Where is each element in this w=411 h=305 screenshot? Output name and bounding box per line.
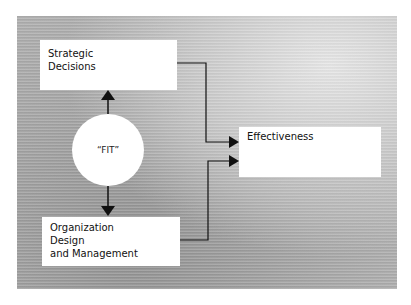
strategic-decisions-box: Strategic Decisions — [40, 40, 177, 90]
arrow-up-icon — [101, 90, 115, 100]
org-line-3: and Management — [50, 247, 172, 260]
strategic-line-2: Decisions — [48, 60, 169, 73]
strategic-to-effectiveness-line — [177, 63, 230, 142]
fit-label: “FIT” — [97, 145, 119, 155]
arrow-right-icon — [229, 136, 239, 148]
org-line-1: Organization — [50, 221, 172, 234]
effectiveness-label: Effectiveness — [247, 130, 373, 143]
arrow-right-icon — [229, 155, 239, 167]
fit-circle: “FIT” — [72, 114, 144, 186]
organization-box: Organization Design and Management — [42, 217, 180, 266]
org-to-effectiveness-line — [180, 161, 230, 240]
effectiveness-box: Effectiveness — [239, 127, 381, 177]
strategic-line-1: Strategic — [48, 47, 169, 60]
arrow-down-icon — [101, 206, 115, 216]
org-line-2: Design — [50, 234, 172, 247]
